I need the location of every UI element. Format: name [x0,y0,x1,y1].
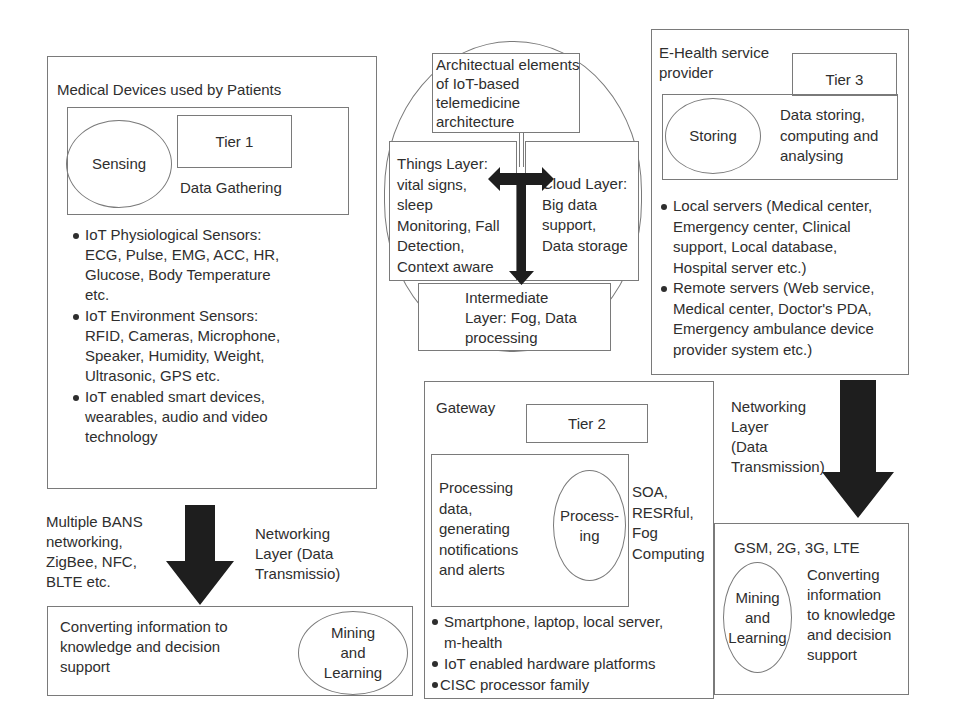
cloud-layer-text: Cloud Layer: Big data support, Data stor… [542,174,628,256]
tier1-bullets: IoT Physiological Sensors: ECG, Pulse, E… [72,225,372,447]
left-mining-label: Mining and Learning [324,623,382,683]
tier2-label: Tier 2 [526,414,648,434]
tier2-bullet: Smartphone, laptop, local server, m-heal… [431,611,711,653]
tier3-bullets: Local servers (Medical center, Emergency… [660,196,910,360]
processing-ellipse: Process- ing [553,470,626,581]
sensing-label: Sensing [92,154,146,174]
tier2-bullets: Smartphone, laptop, local server, m-heal… [431,611,711,695]
tier2-title: Gateway [436,398,495,418]
title-connector [519,133,524,167]
tier2-function: Processing data, generating notification… [439,478,518,581]
tier1-function: Data Gathering [180,178,282,198]
tier3-bullet: Remote servers (Web service, Medical cen… [660,278,910,360]
left-network-protocols: Multiple BANS networking, ZigBee, NFC, B… [46,512,143,592]
tier2-bullet: CISC processor family [431,674,711,695]
right-network-layer: Networking Layer (Data Transmission) [731,397,825,477]
right-networks: GSM, 2G, 3G, LTE [734,538,860,558]
tier2-bullet: IoT enabled hardware platforms [431,653,711,674]
tier3-label: Tier 3 [792,70,897,90]
storing-ellipse: Storing [665,98,761,174]
right-mining-label: Mining and Learning [728,588,786,648]
left-mining-ellipse: Mining and Learning [298,611,408,695]
tier1-bullet: IoT enabled smart devices, wearables, au… [72,387,372,447]
down-arrow-to-intermediate-icon [508,185,536,285]
processing-label: Process- ing [560,506,619,546]
tier1-label: Tier 1 [177,132,292,152]
tier3-bullet: Local servers (Medical center, Emergency… [660,196,910,278]
tier1-title: Medical Devices used by Patients [57,80,281,100]
tier3-function: Data storing, computing and analysing [780,105,878,167]
left-mining-text: Converting information to knowledge and … [60,617,228,677]
right-down-arrow-icon [820,380,896,520]
sensing-ellipse: Sensing [66,120,172,208]
things-layer-text: Things Layer: vital signs, sleep Monitor… [397,154,500,277]
tier1-bullet: IoT Physiological Sensors: ECG, Pulse, E… [72,225,372,305]
left-down-arrow-icon [168,505,254,607]
intermediate-layer-text: Intermediate Layer: Fog, Data processing [465,288,577,348]
tier3-title: E-Health service provider [659,43,769,83]
left-network-layer: Networking Layer (Data Transmissio) [255,524,340,584]
right-mining-ellipse: Mining and Learning [723,562,792,673]
storing-label: Storing [689,126,737,146]
architecture-title: Architectual elements of IoT-based telem… [436,55,579,131]
right-mining-text: Converting information to knowledge and … [807,565,895,665]
tier2-protocols: SOA, RESRful, Fog Computing [632,482,705,564]
tier1-bullet: IoT Environment Sensors: RFID, Cameras, … [72,306,372,386]
